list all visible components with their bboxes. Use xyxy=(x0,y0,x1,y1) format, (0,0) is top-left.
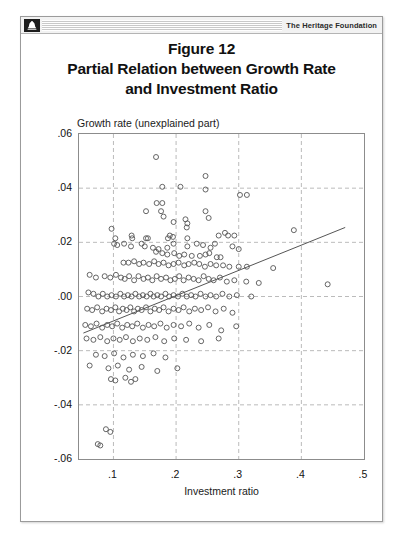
y-tick-label: .04 xyxy=(57,181,72,193)
plot-area xyxy=(78,133,365,460)
x-tick-label: .2 xyxy=(171,468,180,480)
y-tick-label: -.06 xyxy=(54,452,72,464)
data-points-layer xyxy=(83,155,330,448)
publication-brand: The Heritage Foundation xyxy=(286,21,382,30)
x-axis-label: Investment ratio xyxy=(78,485,365,497)
figure-title-block: Figure 12 Partial Relation between Growt… xyxy=(21,39,382,99)
figure-title-line-2: and Investment Ratio xyxy=(21,79,382,99)
figure-number: Figure 12 xyxy=(21,39,382,59)
header-rule-lines xyxy=(42,20,282,31)
x-tick-label: .5 xyxy=(359,468,368,480)
y-tick-label: .02 xyxy=(57,235,72,247)
figure-title-line-1: Partial Relation between Growth Rate xyxy=(21,59,382,79)
plot-svg xyxy=(79,134,364,459)
y-tick-label: -.04 xyxy=(54,398,72,410)
y-tick-label: .00 xyxy=(57,290,72,302)
liberty-bell-icon xyxy=(24,19,40,32)
publication-header: The Heritage Foundation xyxy=(21,17,382,34)
y-axis-label: Growth rate (unexplained part) xyxy=(77,117,219,129)
scatter-chart: Growth rate (unexplained part) -.06-.04-… xyxy=(37,117,367,507)
y-tick-label: -.02 xyxy=(54,344,72,356)
figure-page: The Heritage Foundation Figure 12 Partia… xyxy=(20,16,383,522)
y-tick-label: .06 xyxy=(57,127,72,139)
x-tick-label: .1 xyxy=(108,468,117,480)
x-tick-label: .4 xyxy=(296,468,305,480)
x-tick-label: .3 xyxy=(233,468,242,480)
